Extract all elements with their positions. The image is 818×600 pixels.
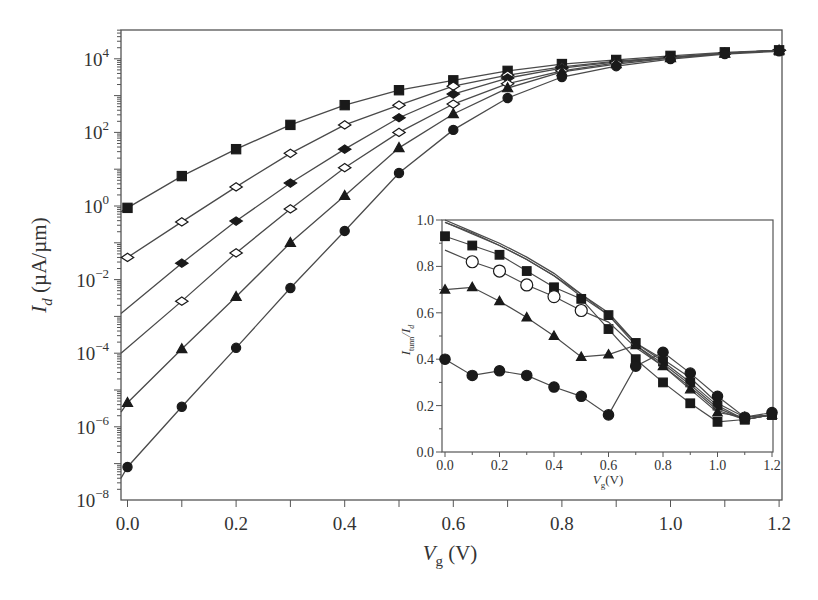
x-tick-label: 0.8 (550, 513, 574, 534)
circle-marker (394, 168, 403, 177)
x-label-unit: (V) (443, 541, 477, 565)
y-tick-exponent: −6 (95, 413, 109, 428)
y-label-unit: (µA/µm) (27, 217, 51, 298)
circle-marker (521, 279, 533, 291)
inset-y-tick-label: 0.2 (417, 399, 435, 414)
chart-canvas: 10410210010−210−410−610−80.00.20.40.60.8… (0, 0, 818, 600)
circle-marker (603, 410, 613, 420)
circle-marker (503, 93, 512, 102)
circle-marker (286, 283, 295, 292)
circle-marker (232, 343, 241, 352)
triangle-marker (394, 143, 404, 152)
inset-y-tick-label: 0.0 (417, 445, 435, 460)
x-tick-label: 1.2 (767, 513, 791, 534)
circle-marker (449, 125, 458, 134)
y-tick-base: 10 (76, 417, 95, 438)
y-tick-base: 10 (76, 490, 95, 511)
chart-figure: 10410210010−210−410−610−80.00.20.40.60.8… (0, 0, 818, 600)
x-tick-label: 0.0 (116, 513, 140, 534)
x-tick-label: 1.0 (659, 513, 683, 534)
y-tick-base: 10 (76, 343, 95, 364)
y-tick-exponent: −2 (95, 266, 109, 281)
y-tick-base: 10 (76, 270, 95, 291)
x-tick-label: 0.6 (441, 513, 465, 534)
inset-y-tick-label: 1.0 (417, 213, 435, 228)
inset-y-tick-label: 0.6 (417, 306, 435, 321)
y-tick-exponent: −4 (95, 339, 109, 354)
inset-x-tick-label: 1.0 (709, 458, 727, 473)
square-marker (286, 120, 295, 129)
inset-x-tick-label: 0.4 (545, 458, 563, 473)
x-tick-label: 0.2 (224, 513, 248, 534)
square-marker (177, 171, 186, 180)
circle-marker (340, 226, 349, 235)
square-marker (394, 86, 403, 95)
inset-x-tick-label: 0.6 (600, 458, 618, 473)
square-marker (713, 418, 722, 427)
square-marker (232, 145, 241, 154)
inset-y-tick-label: 0.4 (417, 352, 435, 367)
y-tick-label: 10−8 (76, 486, 109, 511)
inset-plot: 0.00.20.40.60.81.00.00.20.40.60.81.01.2V… (398, 213, 781, 490)
square-marker (604, 311, 613, 320)
square-marker (495, 251, 504, 260)
circle-marker (576, 391, 586, 401)
circle-marker (720, 49, 729, 58)
square-marker (659, 378, 668, 387)
circle-marker (467, 370, 477, 380)
circle-marker (666, 55, 675, 64)
triangle-marker (285, 238, 295, 247)
square-marker (123, 203, 132, 212)
square-marker (686, 399, 695, 408)
y-tick-exponent: −8 (95, 486, 109, 501)
diamond-marker (447, 90, 459, 98)
square-marker (604, 325, 613, 334)
square-marker (468, 241, 477, 250)
inset-y-label-sub2: d (407, 324, 416, 329)
y-tick-label: 10−6 (76, 413, 109, 438)
x-tick-label: 0.4 (333, 513, 357, 534)
circle-marker (775, 47, 784, 56)
circle-marker (440, 354, 450, 364)
y-tick-base: 10 (84, 122, 103, 143)
circle-marker (123, 462, 132, 471)
inset-y-tick-label: 0.8 (417, 259, 435, 274)
inset-y-label-sub: tunn (407, 337, 416, 351)
circle-marker (685, 368, 695, 378)
square-marker (340, 101, 349, 110)
inset-x-tick-label: 1.2 (763, 458, 781, 473)
y-tick-exponent: 2 (103, 118, 110, 133)
circle-marker (712, 391, 722, 401)
inset-x-label-unit: (V) (605, 472, 623, 487)
y-tick-base: 10 (84, 49, 103, 70)
inset-x-axis-label: Vg(V) (593, 472, 624, 490)
square-marker (522, 267, 531, 276)
circle-marker (494, 265, 506, 277)
x-axis-label: Vg (V) (423, 541, 478, 569)
y-axis-label: Id (µA/µm) (27, 217, 55, 313)
inset-x-tick-label: 0.8 (654, 458, 672, 473)
square-marker (441, 232, 450, 241)
circle-marker (522, 370, 532, 380)
y-tick-label: 102 (84, 118, 110, 143)
y-tick-label: 104 (84, 45, 110, 70)
y-tick-base: 10 (84, 196, 103, 217)
circle-marker (767, 407, 777, 417)
y-tick-label: 100 (84, 192, 110, 217)
circle-marker (466, 256, 478, 268)
circle-marker (177, 402, 186, 411)
circle-marker (557, 72, 566, 81)
circle-marker (631, 361, 641, 371)
circle-marker (658, 347, 668, 357)
circle-marker (549, 382, 559, 392)
y-tick-exponent: 4 (103, 45, 110, 60)
inset-x-tick-label: 0.0 (436, 458, 454, 473)
y-tick-label: 10−2 (76, 266, 109, 291)
inset-x-tick-label: 0.2 (491, 458, 509, 473)
circle-marker (612, 62, 621, 71)
y-tick-exponent: 0 (103, 192, 110, 207)
y-tick-label: 10−4 (76, 339, 109, 364)
circle-marker (575, 304, 587, 316)
inset-y-axis-label: Itunn/Id (398, 324, 416, 357)
triangle-marker (448, 109, 458, 118)
